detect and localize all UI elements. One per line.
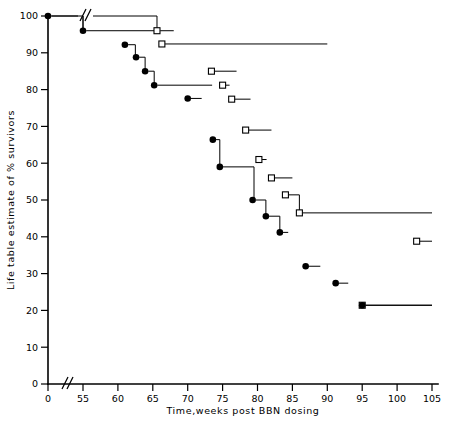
y-tick-label: 50 bbox=[26, 194, 38, 205]
x-tick-label: 0 bbox=[45, 393, 51, 404]
x-tick-label: 55 bbox=[77, 393, 89, 404]
y-tick-label: 40 bbox=[26, 231, 38, 242]
data-point-open-square bbox=[243, 127, 249, 133]
x-tick-label: 60 bbox=[112, 393, 124, 404]
chart-canvas: 0102030405060708090100 05560657075808590… bbox=[0, 0, 456, 437]
y-tick-label: 30 bbox=[26, 268, 38, 279]
x-axis-break-icon bbox=[62, 377, 73, 389]
series-a-step-lines bbox=[51, 16, 432, 305]
data-point-filled-circle bbox=[210, 136, 217, 143]
data-point-filled-circle bbox=[133, 54, 140, 61]
series-b-markers bbox=[154, 28, 420, 309]
data-point-filled-circle bbox=[184, 95, 191, 102]
data-point-filled-circle bbox=[80, 27, 87, 34]
x-tick-label: 100 bbox=[388, 393, 406, 404]
plot-break-marker-icon bbox=[80, 9, 91, 21]
y-tick-label: 10 bbox=[26, 342, 38, 353]
x-tick-label: 90 bbox=[321, 393, 333, 404]
data-point-open-square bbox=[256, 157, 262, 163]
x-tick-label: 105 bbox=[423, 393, 441, 404]
series-a-markers bbox=[45, 13, 366, 309]
series-b-step-lines bbox=[52, 16, 433, 305]
x-tick-label: 85 bbox=[286, 393, 298, 404]
data-point-open-square bbox=[220, 82, 226, 88]
data-point-filled-circle bbox=[151, 82, 158, 89]
data-point-open-square bbox=[208, 68, 214, 74]
y-tick-label: 100 bbox=[20, 10, 38, 21]
data-point-filled-circle bbox=[332, 280, 339, 287]
data-point-filled-circle bbox=[359, 302, 366, 309]
x-tick-label: 80 bbox=[251, 393, 263, 404]
y-tick-label: 70 bbox=[26, 121, 38, 132]
data-point-open-square bbox=[229, 96, 235, 102]
x-tick-label: 65 bbox=[147, 393, 159, 404]
x-tick-group: 0556065707580859095100105 bbox=[45, 384, 441, 404]
axes bbox=[44, 16, 438, 389]
data-point-open-square bbox=[268, 175, 274, 181]
x-axis-title: Time,weeks post BBN dosing bbox=[166, 405, 320, 416]
x-tick-label: 70 bbox=[182, 393, 194, 404]
data-point-open-square bbox=[296, 210, 302, 216]
y-tick-label: 90 bbox=[26, 47, 38, 58]
data-point-filled-circle bbox=[122, 41, 129, 48]
survival-chart-figure: 0102030405060708090100 05560657075808590… bbox=[0, 0, 456, 437]
y-axis-break-icon bbox=[44, 368, 50, 378]
data-point-filled-circle bbox=[142, 68, 149, 75]
data-point-filled-circle bbox=[277, 229, 284, 236]
data-point-filled-circle bbox=[263, 213, 270, 220]
data-point-open-square bbox=[159, 41, 165, 47]
data-point-open-square bbox=[154, 28, 160, 34]
y-tick-group: 0102030405060708090100 bbox=[20, 10, 48, 389]
y-tick-label: 60 bbox=[26, 158, 38, 169]
data-point-filled-circle bbox=[249, 197, 256, 204]
data-point-open-square bbox=[282, 192, 288, 198]
data-point-open-square bbox=[414, 238, 420, 244]
data-point-filled-circle bbox=[45, 13, 52, 20]
y-tick-label: 0 bbox=[32, 378, 38, 389]
y-tick-label: 80 bbox=[26, 84, 38, 95]
data-point-filled-circle bbox=[217, 164, 224, 171]
y-tick-label: 20 bbox=[26, 305, 38, 316]
x-tick-label: 95 bbox=[356, 393, 368, 404]
x-tick-label: 75 bbox=[217, 393, 229, 404]
data-point-filled-circle bbox=[302, 263, 309, 270]
y-axis-title: Life table estimate of % survivors bbox=[5, 110, 16, 290]
